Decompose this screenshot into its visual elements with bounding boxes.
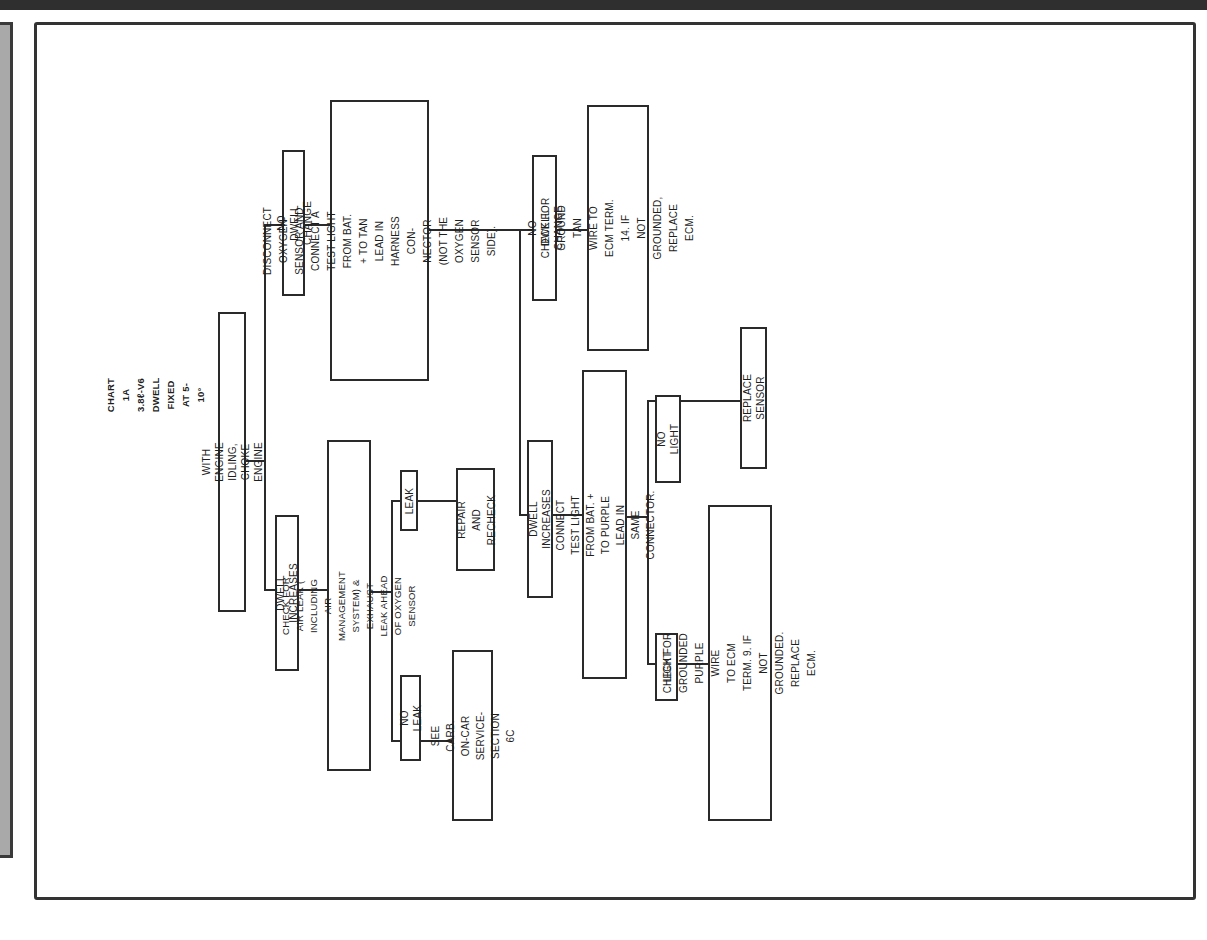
connector bbox=[264, 224, 266, 590]
chart-title: CHART 1A bbox=[105, 378, 131, 412]
node-label: DWELL INCREASES bbox=[527, 489, 553, 549]
chart-engine: 3.8ℓ-V6 bbox=[135, 378, 146, 412]
node-label: DISCONNECT OXYGEN SENSOR AND CONNECT A T… bbox=[260, 207, 500, 275]
node-label: LEAK bbox=[403, 487, 416, 513]
node-no-light: NO LIGHT bbox=[655, 395, 681, 483]
node-repair-recheck: REPAIR AND RECHECK bbox=[456, 468, 495, 571]
node-label: CHECK FOR GROUNDED PURPLE WIRE TO ECM TE… bbox=[660, 632, 820, 695]
node-see-carb: SEE CARB. ON-CAR SERVICE-SECTION 6C bbox=[452, 650, 493, 821]
connector bbox=[417, 500, 457, 502]
node-check-air-leak: CHECK FOR AIR LEAK ( INCLUDING AIR MANAG… bbox=[327, 440, 371, 771]
node-label: WITH ENGINE IDLING, CHOKE ENGINE bbox=[200, 442, 265, 482]
connector bbox=[519, 229, 521, 515]
node-replace-sensor: REPLACE SENSOR bbox=[740, 327, 767, 469]
chart-title-text: CHART 1A 3.8ℓ-V6 DWELL FIXED AT 5-10° bbox=[103, 378, 208, 413]
top-edge-bar bbox=[0, 0, 1207, 10]
node-no-leak: NO LEAK bbox=[400, 675, 421, 761]
node-leak: LEAK bbox=[400, 470, 418, 531]
node-disconnect-sensor: DISCONNECT OXYGEN SENSOR AND CONNECT A T… bbox=[330, 100, 429, 381]
node-check-grounded-purple: CHECK FOR GROUNDED PURPLE WIRE TO ECM TE… bbox=[708, 505, 772, 821]
node-label: CHECK FOR GROUND TAN WIRE TO ECM TERM. 1… bbox=[538, 197, 698, 260]
node-label: NO LIGHT bbox=[655, 424, 681, 454]
node-root: WITH ENGINE IDLING, CHOKE ENGINE bbox=[218, 312, 246, 612]
side-strip bbox=[0, 22, 13, 858]
node-label: REPAIR AND RECHECK bbox=[453, 494, 498, 544]
node-label: REPLACE SENSOR bbox=[741, 374, 767, 422]
node-dwell-increases-2: DWELL INCREASES bbox=[527, 440, 553, 598]
node-check-ground-tan: CHECK FOR GROUND TAN WIRE TO ECM TERM. 1… bbox=[587, 105, 649, 351]
node-label: CHECK FOR AIR LEAK ( INCLUDING AIR MANAG… bbox=[279, 570, 419, 640]
node-label: SEE CARB. ON-CAR SERVICE-SECTION 6C bbox=[428, 711, 518, 760]
node-connect-test-light: CONNECT TEST LIGHT FROM BAT. + TO PURPLE… bbox=[582, 370, 627, 679]
connector bbox=[680, 400, 741, 402]
chart-subtitle: DWELL FIXED AT 5-10° bbox=[150, 378, 206, 413]
node-label: CONNECT TEST LIGHT FROM BAT. + TO PURPLE… bbox=[552, 490, 657, 559]
node-label: NO LEAK bbox=[398, 705, 424, 731]
